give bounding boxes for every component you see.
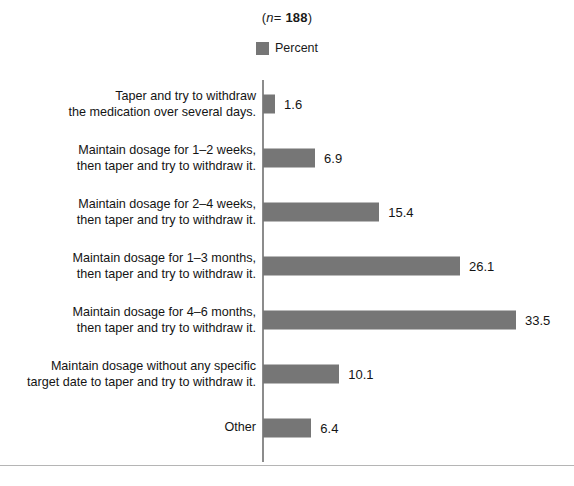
bar-percent bbox=[263, 95, 275, 114]
category-label: Maintain dosage for 1–2 weeks, then tape… bbox=[0, 143, 256, 174]
category-label: Taper and try to withdraw the medication… bbox=[0, 89, 256, 120]
chart-row: Maintain dosage for 4–6 months, then tap… bbox=[0, 298, 574, 342]
chart-row: Other6.4 bbox=[0, 406, 574, 450]
chart-legend: Percent bbox=[0, 41, 574, 55]
bar-percent bbox=[263, 257, 460, 276]
chart-row: Maintain dosage for 1–2 weeks, then tape… bbox=[0, 136, 574, 180]
chart-row: Maintain dosage for 1–3 months, then tap… bbox=[0, 244, 574, 288]
figure-bottom-rule bbox=[0, 465, 574, 466]
bar-value-label: 33.5 bbox=[525, 313, 550, 328]
plot-area: Taper and try to withdraw the medication… bbox=[0, 72, 574, 458]
bar-value-label: 6.9 bbox=[324, 151, 342, 166]
bar-value-label: 10.1 bbox=[348, 367, 373, 382]
sample-size-equals: = bbox=[274, 10, 286, 25]
bar-value-label: 6.4 bbox=[320, 421, 338, 436]
category-label: Maintain dosage without any specific tar… bbox=[0, 359, 256, 390]
bar-value-label: 26.1 bbox=[469, 259, 494, 274]
category-label: Maintain dosage for 1–3 months, then tap… bbox=[0, 251, 256, 282]
sample-size-symbol: n bbox=[266, 10, 273, 25]
bar-percent bbox=[263, 203, 379, 222]
chart-row: Maintain dosage for 2–4 weeks, then tape… bbox=[0, 190, 574, 234]
bar-percent bbox=[263, 149, 315, 168]
category-label: Maintain dosage for 2–4 weeks, then tape… bbox=[0, 197, 256, 228]
bar-chart-figure: (n= 188) Percent Taper and try to withdr… bbox=[0, 0, 574, 486]
bar-percent bbox=[263, 419, 311, 438]
bar-percent bbox=[263, 311, 516, 330]
chart-row: Taper and try to withdraw the medication… bbox=[0, 82, 574, 126]
bar-percent bbox=[263, 365, 339, 384]
bar-value-label: 15.4 bbox=[388, 205, 413, 220]
sample-size-suffix: ) bbox=[308, 10, 313, 25]
legend-label-percent: Percent bbox=[275, 41, 318, 55]
category-label: Other bbox=[0, 420, 256, 436]
sample-size-value: 188 bbox=[285, 10, 307, 25]
bar-value-label: 1.6 bbox=[284, 97, 302, 112]
legend-swatch-icon bbox=[256, 42, 269, 55]
category-label: Maintain dosage for 4–6 months, then tap… bbox=[0, 305, 256, 336]
chart-row: Maintain dosage without any specific tar… bbox=[0, 352, 574, 396]
sample-size-caption: (n= 188) bbox=[0, 10, 574, 25]
